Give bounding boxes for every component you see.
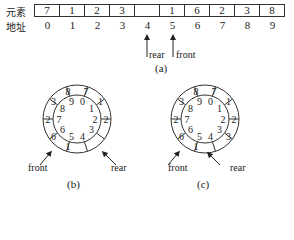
slot-index: 2 [221, 114, 226, 125]
slot-index: 3 [217, 124, 222, 135]
slot-value: 6 [51, 131, 56, 142]
slot-value: 1 [226, 96, 231, 107]
slot-value: 6 [179, 131, 184, 142]
slot-index: 4 [208, 131, 213, 142]
slot-index: 0 [80, 96, 85, 107]
rear-label-c: rear [230, 162, 246, 173]
circular-queue-b [43, 85, 111, 153]
caption-b: (b) [67, 178, 80, 190]
slot-value: 1 [66, 141, 71, 152]
slot-index: 7 [185, 114, 190, 125]
front-label-c: front [168, 162, 187, 173]
slot-index: 5 [197, 131, 202, 142]
slot-index: 0 [208, 96, 213, 107]
slot-value: 1 [194, 141, 199, 152]
slot-index: 7 [57, 114, 62, 125]
slot-value: 7 [211, 86, 216, 97]
slot-value: 8 [194, 86, 199, 97]
circular-queue-c [171, 85, 239, 153]
slot-value: 3 [226, 131, 231, 142]
rear-label: rear [149, 49, 165, 60]
slot-value: 2 [232, 114, 237, 125]
slot-index: 8 [188, 103, 193, 114]
slot-index: 1 [217, 103, 222, 114]
slot-value: 7 [83, 86, 88, 97]
slot-index: 9 [197, 96, 202, 107]
slot-index: 8 [60, 103, 65, 114]
rear-arrow-icon [209, 154, 220, 165]
caption-a: (a) [155, 62, 167, 74]
slot-index: 6 [188, 124, 193, 135]
slot-value: 2 [46, 114, 51, 125]
slot-value: 8 [66, 86, 71, 97]
slot-index: 2 [93, 114, 98, 125]
slot-index: 3 [89, 124, 94, 135]
slot-value: 1 [98, 96, 103, 107]
slot-value: 3 [51, 96, 56, 107]
slot-index: 9 [69, 96, 74, 107]
slot-index: 5 [69, 131, 74, 142]
slot-value: 2 [174, 114, 179, 125]
front-label: front [176, 49, 195, 60]
slot-index: 1 [89, 103, 94, 114]
rear-label-b: rear [111, 162, 127, 173]
caption-c: (c) [197, 178, 209, 190]
front-label-b: front [28, 162, 47, 173]
slot-index: 4 [80, 131, 85, 142]
slot-index: 6 [60, 124, 65, 135]
slot-value: 3 [179, 96, 184, 107]
slot-value: 2 [104, 114, 109, 125]
